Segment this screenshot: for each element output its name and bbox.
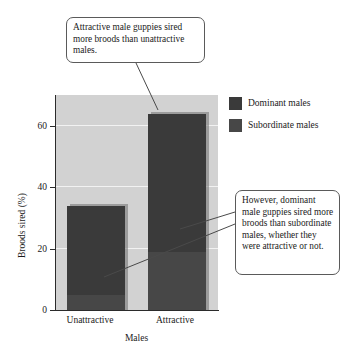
y-tick-0: [50, 310, 55, 311]
y-tick-label-40: 40: [21, 182, 47, 192]
y-tick-20: [50, 249, 55, 250]
legend-swatch-dominant-icon: [229, 97, 242, 110]
legend-swatch-subordinate-icon: [229, 119, 242, 132]
legend: Dominant males Subordinate males: [229, 96, 318, 140]
x-axis-label: Males: [55, 333, 218, 343]
x-axis-line: [55, 310, 219, 311]
y-tick-40: [50, 187, 55, 188]
x-tick-label-attractive: Attractive: [140, 315, 210, 326]
y-axis-label: Broods sired (%): [17, 193, 27, 258]
legend-label-subordinate: Subordinate males: [248, 120, 318, 130]
callout-box-right: However, dominant male guppies sired mor…: [235, 190, 340, 275]
bar-segment-subordinate-attractive: [148, 252, 206, 310]
legend-label-dominant: Dominant males: [248, 98, 311, 108]
figure-container: 60 40 20 0 Broods sired (%) Unattractive…: [0, 0, 346, 351]
legend-item-dominant: Dominant males: [229, 96, 318, 110]
y-tick-label-0: 0: [21, 305, 47, 315]
legend-item-subordinate: Subordinate males: [229, 118, 318, 132]
bar-segment-subordinate-unattractive: [67, 295, 125, 310]
bar-segment-dominant-attractive: [148, 114, 206, 252]
bar-segment-dominant-unattractive: [67, 206, 125, 295]
y-axis-line: [55, 95, 56, 311]
x-tick-label-unattractive: Unattractive: [55, 315, 125, 326]
plot-area: [55, 95, 218, 310]
bar-attractive: [148, 114, 206, 310]
callout-box-top: Attractive male guppies sired more brood…: [66, 17, 205, 63]
bar-unattractive: [67, 206, 125, 310]
y-tick-label-60: 60: [21, 121, 47, 131]
y-tick-60: [50, 126, 55, 127]
